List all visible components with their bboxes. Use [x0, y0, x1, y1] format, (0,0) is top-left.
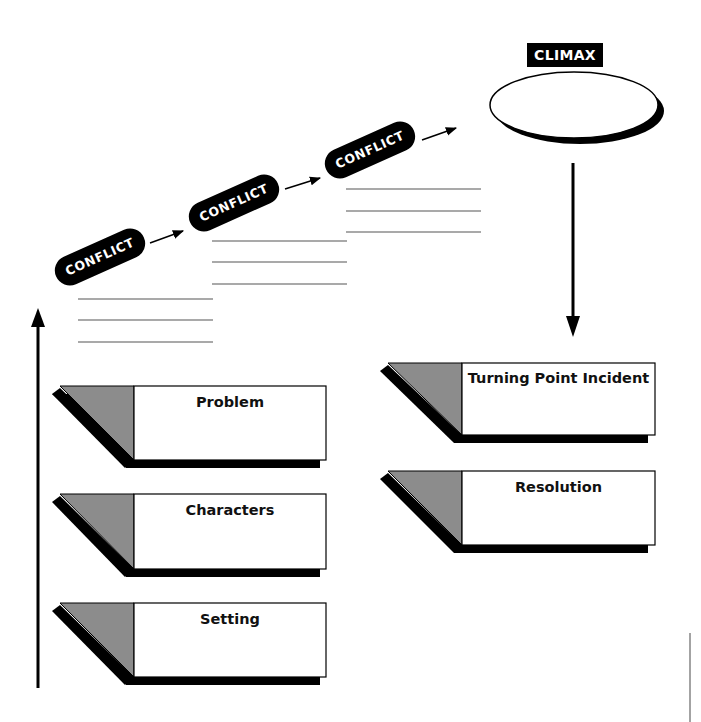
- diagram-graphics: [0, 0, 701, 722]
- rising-action-arrow: [31, 308, 45, 688]
- climax-label: CLIMAX: [527, 43, 603, 67]
- arrow-conflict1-to-conflict2: [150, 231, 183, 243]
- conflict-1-answer-lines: [78, 299, 213, 342]
- turning-point-box-title: Turning Point Incident: [462, 370, 655, 386]
- arrow-conflict3-to-climax: [422, 128, 456, 140]
- problem-box-title: Problem: [134, 394, 326, 410]
- conflict-2-answer-lines: [212, 241, 347, 284]
- characters-box-title: Characters: [134, 502, 326, 518]
- climax-ellipse: [490, 72, 664, 144]
- resolution-box-title: Resolution: [462, 479, 655, 495]
- conflict-3-answer-lines: [346, 189, 481, 232]
- plot-diagram: CLIMAX CONFLICT CONFLICT CONFLICT Proble…: [0, 0, 701, 722]
- arrow-conflict2-to-conflict3: [285, 178, 320, 189]
- falling-action-arrow: [566, 163, 580, 337]
- setting-box-title: Setting: [134, 611, 326, 627]
